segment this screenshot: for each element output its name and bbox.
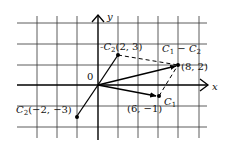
point-diff bbox=[176, 63, 180, 67]
origin-label: 0 bbox=[87, 71, 93, 82]
label-diff-coords: (8, 2) bbox=[181, 61, 208, 72]
point-c2 bbox=[75, 115, 79, 119]
vector-c1 bbox=[98, 85, 156, 96]
point-c1 bbox=[157, 94, 161, 98]
vector-c1-minus-c2 bbox=[98, 66, 176, 85]
grid bbox=[17, 16, 207, 138]
dashed-neg-c2-to-diff bbox=[118, 55, 178, 65]
label-c1-coords: (6, −1) bbox=[127, 103, 162, 114]
vector-c2 bbox=[77, 85, 98, 116]
vector-diagram: y x 0 -C2(2, 3) C1 − C2 (8, 2) C1 (6, −1… bbox=[0, 0, 228, 147]
label-c1-minus-c2: C1 − C2 bbox=[162, 43, 201, 56]
point-neg-c2 bbox=[116, 53, 120, 57]
label-neg-c2: -C2(2, 3) bbox=[100, 41, 142, 54]
y-axis-label: y bbox=[106, 11, 113, 22]
label-c1: C1 bbox=[164, 96, 176, 109]
x-axis-label: x bbox=[212, 81, 218, 92]
